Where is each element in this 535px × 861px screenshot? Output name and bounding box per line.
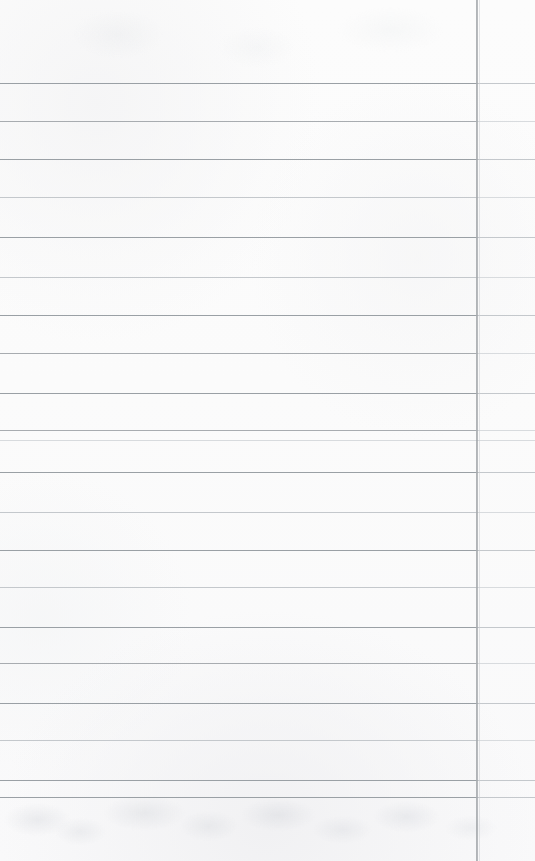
paper-texture bbox=[0, 0, 535, 861]
horizontal-rule-right-stub bbox=[476, 197, 535, 198]
horizontal-rule-right-stub bbox=[476, 797, 535, 798]
horizontal-rule bbox=[0, 197, 476, 198]
horizontal-rule-right-stub bbox=[476, 587, 535, 588]
horizontal-rule bbox=[0, 740, 476, 741]
horizontal-rule-right-stub bbox=[476, 353, 535, 354]
scan-smudge-top bbox=[0, 0, 535, 86]
horizontal-rule bbox=[0, 277, 476, 278]
horizontal-rule bbox=[0, 315, 476, 316]
horizontal-rule-right-stub bbox=[476, 159, 535, 160]
horizontal-rule-right-stub bbox=[476, 430, 535, 431]
horizontal-rule bbox=[0, 472, 476, 473]
horizontal-rule-right-stub bbox=[476, 550, 535, 551]
horizontal-rule-right-stub bbox=[476, 703, 535, 704]
horizontal-rule-right-stub bbox=[476, 83, 535, 84]
horizontal-rule-right-stub bbox=[476, 393, 535, 394]
horizontal-rule-right-stub bbox=[476, 512, 535, 513]
horizontal-rule bbox=[0, 780, 476, 781]
horizontal-rule bbox=[0, 430, 476, 431]
horizontal-rule-right-stub bbox=[476, 780, 535, 781]
horizontal-rule bbox=[0, 159, 476, 160]
horizontal-rule bbox=[0, 440, 476, 441]
horizontal-rule bbox=[0, 797, 476, 798]
horizontal-rule bbox=[0, 512, 476, 513]
horizontal-rule-right-stub bbox=[476, 440, 535, 441]
horizontal-rule bbox=[0, 663, 476, 664]
horizontal-rule-right-stub bbox=[476, 740, 535, 741]
horizontal-rule bbox=[0, 550, 476, 551]
ruling-layer bbox=[0, 0, 535, 861]
horizontal-rule bbox=[0, 393, 476, 394]
bleed-through-smudge bbox=[0, 769, 535, 861]
vertical-column-rule bbox=[476, 0, 478, 861]
horizontal-rule-right-stub bbox=[476, 663, 535, 664]
horizontal-rule bbox=[0, 703, 476, 704]
horizontal-rule-right-stub bbox=[476, 121, 535, 122]
horizontal-rule bbox=[0, 83, 476, 84]
horizontal-rule bbox=[0, 121, 476, 122]
scanned-page bbox=[0, 0, 535, 861]
horizontal-rule bbox=[0, 627, 476, 628]
horizontal-rule-right-stub bbox=[476, 277, 535, 278]
horizontal-rule-right-stub bbox=[476, 627, 535, 628]
horizontal-rule-right-stub bbox=[476, 237, 535, 238]
horizontal-rule-right-stub bbox=[476, 472, 535, 473]
horizontal-rule bbox=[0, 353, 476, 354]
vertical-rule-ghost bbox=[479, 0, 480, 861]
horizontal-rule bbox=[0, 237, 476, 238]
horizontal-rule bbox=[0, 587, 476, 588]
horizontal-rule-right-stub bbox=[476, 315, 535, 316]
